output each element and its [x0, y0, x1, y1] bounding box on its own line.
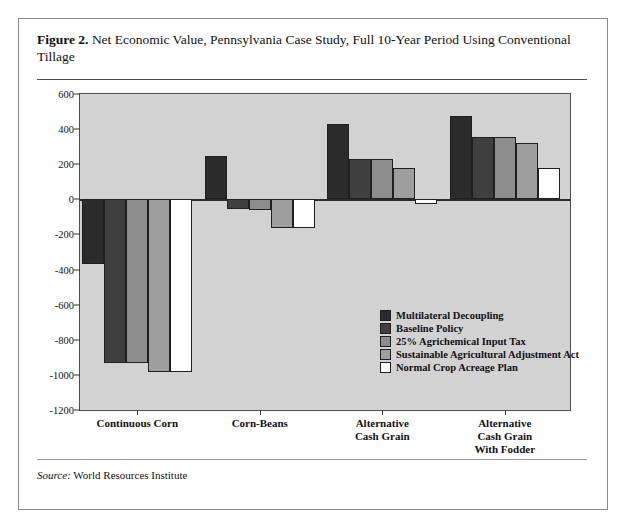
- chart-bar: [415, 199, 437, 203]
- x-axis-tick-mark: [382, 410, 383, 415]
- chart-bar: [227, 199, 249, 209]
- legend-item: Baseline Policy: [380, 323, 579, 334]
- x-axis-tick-mark: [260, 410, 261, 415]
- chart-bar: [393, 168, 415, 200]
- x-axis-category-label: Alternative Cash Grain: [355, 417, 410, 443]
- chart-legend: Multilateral DecouplingBaseline Policy25…: [380, 310, 579, 373]
- y-axis-tick-mark: [74, 234, 80, 235]
- y-axis-tick-mark: [74, 129, 80, 130]
- y-axis-tick-mark: [74, 410, 80, 411]
- chart-bar: [472, 137, 494, 199]
- chart-bar: [148, 199, 170, 372]
- source-value: World Resources Institute: [71, 469, 188, 481]
- legend-item: 25% Agrichemical Input Tax: [380, 336, 579, 347]
- chart-bar: [293, 199, 315, 228]
- source-label: Source:: [37, 469, 71, 481]
- legend-item: Multilateral Decoupling: [380, 310, 579, 321]
- legend-item: Sustainable Agricultural Adjustment Act: [380, 349, 579, 360]
- chart-bar: [538, 168, 560, 200]
- x-axis-tick-mark: [137, 410, 138, 415]
- chart-bar: [82, 199, 104, 264]
- y-axis-tick-mark: [74, 269, 80, 270]
- chart-bar: [327, 124, 349, 199]
- figure-card: Figure 2. Net Economic Value, Pennsylvan…: [18, 18, 608, 510]
- y-axis-tick-mark: [74, 374, 80, 375]
- x-axis-category-label: Corn-Beans: [232, 417, 288, 430]
- source-note: Source: World Resources Institute: [37, 469, 187, 481]
- legend-swatch-icon: [380, 349, 391, 360]
- chart-bar: [126, 199, 148, 363]
- x-axis-tick-mark: [505, 410, 506, 415]
- chart-bar: [349, 159, 371, 199]
- x-axis-category-label: Continuous Corn: [96, 417, 178, 430]
- y-axis-tick-mark: [74, 164, 80, 165]
- legend-item-label: Sustainable Agricultural Adjustment Act: [396, 349, 579, 360]
- chart-bar: [516, 143, 538, 199]
- x-axis-category-label: Alternative Cash Grain With Fodder: [474, 417, 535, 456]
- legend-item-label: Baseline Policy: [396, 323, 463, 334]
- y-axis-tick-mark: [74, 304, 80, 305]
- chart-bar: [205, 156, 227, 199]
- legend-item-label: Normal Crop Acreage Plan: [396, 362, 518, 373]
- legend-item: Normal Crop Acreage Plan: [380, 362, 579, 373]
- legend-swatch-icon: [380, 336, 391, 347]
- plot-area: Dollars Per Acre Per 10 Years 6004002000…: [79, 93, 571, 411]
- chart-bar: [494, 137, 516, 199]
- legend-swatch-icon: [380, 362, 391, 373]
- chart-bar: [104, 199, 126, 362]
- legend-item-label: 25% Agrichemical Input Tax: [396, 336, 526, 347]
- chart-bar: [371, 159, 393, 199]
- chart-bar: [170, 199, 192, 372]
- legend-swatch-icon: [380, 323, 391, 334]
- chart-bar: [271, 199, 293, 228]
- source-divider: [37, 459, 587, 460]
- chart-bar: [249, 199, 271, 210]
- y-axis-tick-mark: [74, 339, 80, 340]
- legend-item-label: Multilateral Decoupling: [396, 310, 504, 321]
- chart-bar: [450, 116, 472, 199]
- y-axis-tick-mark: [74, 94, 80, 95]
- chart-container: Dollars Per Acre Per 10 Years 6004002000…: [19, 19, 609, 511]
- legend-swatch-icon: [380, 310, 391, 321]
